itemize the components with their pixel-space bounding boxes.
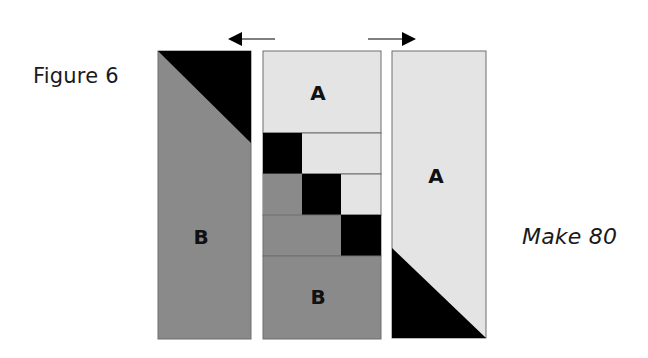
strip-label-b: B: [310, 285, 325, 309]
strip-label-a: A: [310, 81, 326, 105]
arrow-left-icon: [228, 32, 275, 46]
center-row-2: [263, 174, 381, 215]
right-strip: A: [392, 51, 486, 338]
center-row-3: [263, 215, 381, 256]
quilt-strip-diagram: B A B A: [0, 0, 648, 358]
center-strip: A B: [263, 51, 381, 339]
left-strip: B: [158, 51, 251, 339]
center-row-1: [263, 133, 381, 174]
strip-label-b: B: [193, 225, 208, 249]
arrow-right-icon: [368, 32, 416, 46]
strip-label-a: A: [428, 164, 444, 188]
